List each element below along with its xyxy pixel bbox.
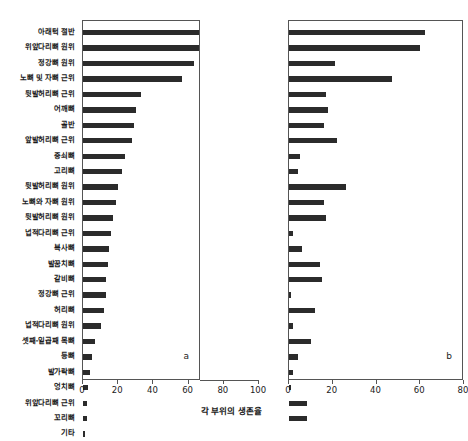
bar-row <box>83 365 199 380</box>
axis-tick-label: 0 <box>285 385 290 395</box>
category-label: 발꿈치뼈 <box>0 256 78 271</box>
bar <box>83 61 194 66</box>
bar <box>83 138 132 143</box>
bar <box>289 61 335 66</box>
bar <box>289 215 326 220</box>
bars-container-a <box>83 25 199 383</box>
bar-row <box>83 102 199 117</box>
bar-row <box>83 272 199 287</box>
category-label: 넙적다리뼈 근위 <box>0 225 78 240</box>
bar <box>289 200 324 205</box>
bar <box>289 339 311 344</box>
bar-row <box>289 118 462 133</box>
bar-row <box>289 133 462 148</box>
bar <box>83 339 95 344</box>
bar-row <box>83 40 199 55</box>
axis-tick <box>152 380 153 384</box>
bar-row <box>289 272 462 287</box>
bar-row <box>289 87 462 102</box>
bar-row <box>289 179 462 194</box>
bar <box>289 92 326 97</box>
bar <box>83 123 134 128</box>
bar-row <box>83 426 199 441</box>
axis-tick <box>223 380 224 384</box>
axis-tick <box>463 380 464 384</box>
axis-tick-label: 100 <box>250 385 266 395</box>
category-label: 셋째-일곱째 목뼈 <box>0 333 78 348</box>
bar <box>83 200 116 205</box>
axis-tick-label: 20 <box>326 385 337 395</box>
bar-row <box>83 303 199 318</box>
bar <box>289 45 420 50</box>
category-label: 넙적다리뼈 원위 <box>0 317 78 332</box>
bar-row <box>83 118 199 133</box>
axis-tick-label: 20 <box>112 385 123 395</box>
bar-row <box>289 334 462 349</box>
bar <box>289 76 392 81</box>
bar <box>289 231 293 236</box>
bar-row <box>289 303 462 318</box>
category-label: 엉치뼈 <box>0 379 78 394</box>
x-axis-label: 각 부위의 생존율 <box>0 404 463 416</box>
axis-tick <box>117 380 118 384</box>
category-label: 노뼈와 자뼈 원위 <box>0 194 78 209</box>
bar <box>289 308 315 313</box>
axis-tick-label: 40 <box>147 385 158 395</box>
bar <box>289 292 291 297</box>
category-label: 등뼈 <box>0 348 78 363</box>
x-axis-b: 020406080 <box>288 380 463 404</box>
category-label: 허리뼈 <box>0 302 78 317</box>
axis-tick-label: 60 <box>182 385 193 395</box>
bar <box>83 262 108 267</box>
bar <box>83 30 199 35</box>
axis-tick <box>332 380 333 384</box>
bar <box>289 370 293 375</box>
bar-row <box>289 226 462 241</box>
category-label: 고리뼈 <box>0 163 78 178</box>
bar <box>83 277 106 282</box>
bar-row <box>83 164 199 179</box>
category-label: 갈비뼈 <box>0 271 78 286</box>
category-label: 골반 <box>0 117 78 132</box>
bar <box>289 323 293 328</box>
bar-row <box>83 334 199 349</box>
bar-row <box>289 56 462 71</box>
bar-row <box>83 133 199 148</box>
bar <box>83 215 113 220</box>
bar-row <box>83 257 199 272</box>
category-label: 복사뼈 <box>0 240 78 255</box>
bar <box>289 184 346 189</box>
category-label: 뒷발허리뼈 원위 <box>0 209 78 224</box>
bar-row <box>289 257 462 272</box>
axis-tick-label: 80 <box>217 385 228 395</box>
bar-row <box>289 287 462 302</box>
bar-row <box>83 56 199 71</box>
bar <box>83 169 122 174</box>
bar-row <box>289 365 462 380</box>
bar-row <box>83 87 199 102</box>
category-label: 정강뼈 원위 <box>0 55 78 70</box>
category-label: 중쇠뼈 <box>0 148 78 163</box>
panel-tag-b: b <box>446 351 452 361</box>
bar <box>289 138 337 143</box>
bar-row <box>83 25 199 40</box>
bar <box>289 416 307 421</box>
bar-row <box>83 241 199 256</box>
bar <box>289 107 328 112</box>
category-label: 아래턱 절반 <box>0 24 78 39</box>
bar <box>83 107 136 112</box>
axis-tick-label: 40 <box>370 385 381 395</box>
bar <box>83 184 118 189</box>
bar-row <box>83 149 199 164</box>
bar-row <box>83 226 199 241</box>
category-label: 정강뼈 근위 <box>0 286 78 301</box>
bar <box>83 323 101 328</box>
bar-row <box>289 149 462 164</box>
bar <box>289 246 302 251</box>
bar-row <box>289 195 462 210</box>
bar-row <box>289 318 462 333</box>
category-label: 기타 <box>0 425 78 440</box>
bar <box>289 169 298 174</box>
bar-row <box>83 179 199 194</box>
bar <box>289 30 425 35</box>
